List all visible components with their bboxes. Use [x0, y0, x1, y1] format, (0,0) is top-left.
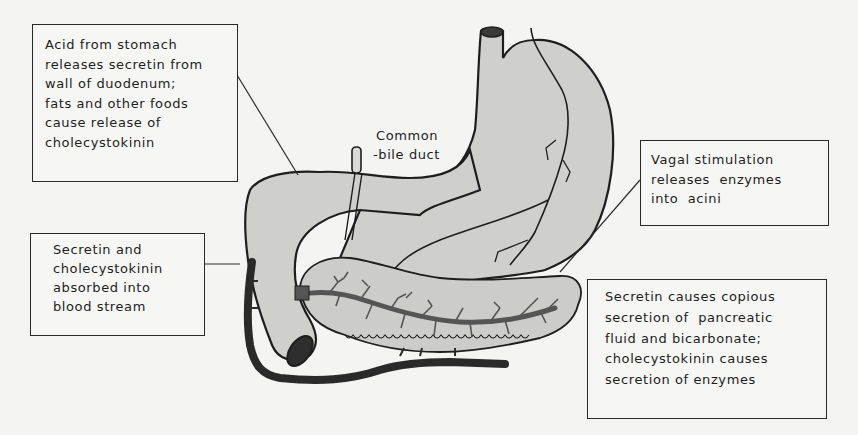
text-line: secretion of enzymes — [605, 370, 818, 391]
text-line: cholecystokinin — [45, 133, 227, 153]
text-line: cholecystokinin causes — [605, 349, 818, 370]
label-secretin-effects: Secretin causes copious secretion of pan… — [587, 279, 827, 419]
text-line: absorbed into — [53, 279, 194, 298]
label-vagal-stimulation: Vagal stimulation releases enzymes into … — [640, 140, 829, 226]
text-line: Vagal stimulation — [651, 150, 820, 170]
label-common-bile-duct: Common -bile duct — [373, 127, 440, 165]
text-line: Secretin and — [53, 241, 194, 260]
text-line: into acini — [651, 189, 820, 209]
pancreatic-secretion-diagram: Acid from stomach releases secretin from… — [0, 0, 858, 435]
text-line: cholecystokinin — [53, 260, 194, 279]
text-line: fluid and bicarbonate; — [605, 329, 818, 350]
text-line: Secretin causes copious — [605, 287, 818, 308]
text-line: secretion of pancreatic — [605, 308, 818, 329]
text-line: Acid from stomach — [45, 35, 227, 55]
text-line: -bile duct — [373, 146, 440, 165]
label-blood-absorption: Secretin and cholecystokinin absorbed in… — [30, 233, 205, 336]
text-line: wall of duodenum; — [45, 74, 227, 94]
label-acid-secretin: Acid from stomach releases secretin from… — [32, 24, 238, 182]
text-line: cause release of — [45, 113, 227, 133]
text-line: blood stream — [53, 298, 194, 317]
text-line: releases enzymes — [651, 170, 820, 190]
text-line: releases secretin from — [45, 55, 227, 75]
esophagus-opening — [481, 27, 503, 37]
text-line: fats and other foods — [45, 94, 227, 114]
leader-acid — [237, 75, 298, 175]
text-line: Common — [373, 127, 440, 146]
